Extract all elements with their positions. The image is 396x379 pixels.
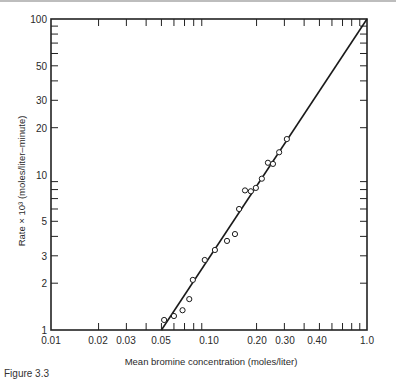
x-tick-label: 0.02 (88, 335, 108, 346)
y-tick-label: 2 (41, 278, 47, 289)
plot-frame (51, 19, 367, 330)
data-point (202, 257, 207, 262)
data-point (187, 297, 192, 302)
x-tick-label: 0.03 (116, 335, 136, 346)
data-point (236, 206, 241, 211)
data-point (270, 161, 275, 166)
x-tick-label: 0.20 (247, 335, 267, 346)
x-axis-title: Mean bromine concentration (moles/liter) (125, 356, 298, 367)
x-tick-label: 0.40 (307, 335, 327, 346)
data-point (190, 277, 195, 282)
data-point (248, 189, 253, 194)
data-point (253, 185, 258, 190)
y-tick-label: 1 (41, 325, 47, 336)
x-tick-label: 1.0 (360, 335, 374, 346)
y-tick-label: 30 (36, 95, 48, 106)
data-point (212, 247, 217, 252)
data-point (171, 313, 176, 318)
x-tick-label: 0.30 (275, 335, 295, 346)
data-point (162, 317, 167, 322)
x-tick-label: 0.05 (151, 335, 171, 346)
y-tick-label: 20 (36, 123, 48, 134)
x-tick-label: 0.10 (199, 335, 219, 346)
figure-caption: Figure 3.3 (4, 368, 49, 379)
data-point (232, 231, 237, 236)
data-point (265, 160, 270, 165)
y-tick-label: 10 (36, 170, 48, 181)
fit-line (161, 19, 367, 330)
data-point (224, 238, 229, 243)
data-point (277, 150, 282, 155)
data-point (242, 188, 247, 193)
y-tick-label: 100 (30, 14, 47, 25)
x-tick-label: 0.01 (41, 335, 61, 346)
y-axis-title: Rate × 10³ (moles/liter–minute) (16, 116, 27, 247)
data-point (259, 176, 264, 181)
y-tick-label: 5 (41, 216, 47, 227)
data-point (180, 308, 185, 313)
y-tick-label: 50 (36, 61, 48, 72)
y-tick-label: 3 (41, 251, 47, 262)
data-point (284, 136, 289, 141)
